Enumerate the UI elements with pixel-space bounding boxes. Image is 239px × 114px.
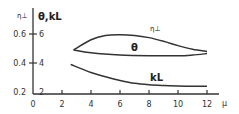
y-tick-label-eta: 0.4 (13, 59, 26, 68)
eta-series-label: η⊥ (150, 25, 161, 33)
series-line-kL (71, 64, 207, 86)
line-chart: 024681012 20.240.460.6 η⊥ θ,kL μ η⊥ θ kL (0, 0, 239, 114)
y-tick-label-eta: 0.2 (13, 88, 26, 97)
curves (71, 35, 207, 87)
y-tick-label-theta-kl: 4 (39, 59, 44, 68)
x-tick-label: 12 (202, 100, 212, 109)
x-ticks: 024681012 (30, 90, 212, 109)
x-tick-label: 8 (146, 100, 151, 109)
x-tick-label: 4 (88, 100, 93, 109)
y-tick-label-eta: 0.6 (13, 30, 26, 39)
x-tick-label: 2 (59, 100, 64, 109)
x-tick-label: 10 (173, 100, 183, 109)
x-axis-label: μ (222, 99, 227, 108)
y-tick-label-theta-kl: 2 (39, 88, 44, 97)
x-tick-label: 0 (30, 100, 35, 109)
eta-axis-label: η⊥ (17, 12, 28, 20)
x-tick-label: 6 (117, 100, 122, 109)
y-tick-label-theta-kl: 6 (39, 30, 44, 39)
theta-kl-axis-label: θ,kL (38, 11, 62, 22)
y-ticks: 20.240.460.6 (13, 30, 44, 97)
kl-series-label: kL (150, 72, 164, 83)
series-line-θ (74, 50, 207, 56)
series-line-η⊥ (74, 35, 207, 52)
theta-series-label: θ (131, 42, 138, 53)
